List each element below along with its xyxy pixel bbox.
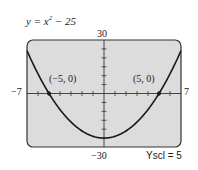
point-label-right: (5, 0) xyxy=(133,73,155,84)
yscl-label: Yscl = 5 xyxy=(146,150,182,161)
x-intercept-right xyxy=(157,92,161,96)
y-max-label: 30 xyxy=(97,28,107,39)
x-intercept-left xyxy=(47,92,51,96)
point-label-left: (−5, 0) xyxy=(49,73,76,84)
graph-canvas xyxy=(0,0,198,170)
x-max-label: 7 xyxy=(184,86,189,97)
x-min-label: −7 xyxy=(11,86,22,97)
y-min-label: −30 xyxy=(91,150,107,161)
